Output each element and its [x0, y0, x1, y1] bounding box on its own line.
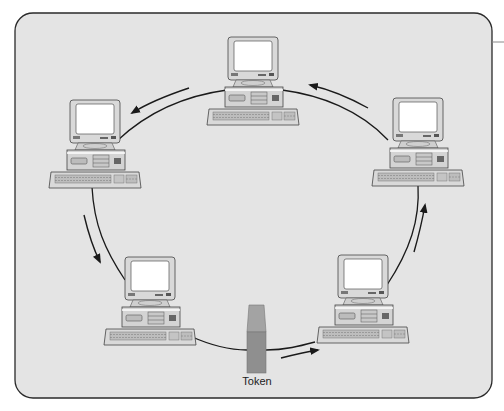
- token-label: Token: [242, 375, 271, 387]
- token-ring-diagram: Token: [0, 0, 504, 411]
